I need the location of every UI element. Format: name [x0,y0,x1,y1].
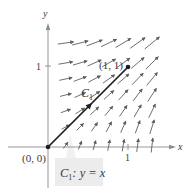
field-arrow-icon [91,123,97,132]
field-arrow-icon [133,89,142,101]
end-point-label: (1, 1) [99,59,123,72]
field-arrow-icon [104,91,114,100]
svg-text:C1: y = x: C1: y = x [60,166,106,182]
svg-text:C1: C1 [81,86,93,102]
field-arrow-icon [151,138,153,152]
field-arrow-icon [122,140,124,152]
field-arrow-icon [108,140,110,151]
field-arrow-icon [134,105,141,117]
origin-label: (0, 0) [22,152,46,165]
field-arrow-icon [119,90,128,100]
field-arrow-icon [130,38,145,49]
curve-callout: C1: y = x [55,134,106,186]
vector-field-figure: C1: y = x x y 1 1 C1 (1, 1) (0, 0) [0,0,187,193]
field-arrow-icon [146,57,158,69]
field-arrow-icon [148,88,157,101]
x-tick-label: 1 [125,152,130,163]
field-arrow-icon [116,39,131,48]
field-arrow-icon [135,121,140,134]
field-arrow-icon [149,104,156,118]
field-arrow-icon [132,73,143,84]
x-axis-arrow-icon [169,145,176,149]
vector-field [58,37,160,153]
y-tick-label: 1 [36,61,41,72]
field-arrow-icon [59,78,72,81]
field-arrow-icon [58,42,74,44]
field-arrow-icon [106,122,111,132]
field-arrow-icon [145,37,160,49]
field-arrow-icon [101,39,116,46]
field-arrow-icon [88,76,100,82]
field-arrow-icon [74,77,86,82]
x-axis-label: x [177,141,183,152]
y-axis-label: y [42,8,48,19]
field-arrow-icon [73,61,87,65]
field-arrow-icon [59,62,73,64]
field-arrow-icon [90,107,98,115]
field-arrow-icon [87,40,103,46]
field-arrow-icon [137,139,139,152]
callout-pointer [66,134,76,158]
field-arrow-icon [77,124,84,131]
field-arrow-icon [120,106,127,117]
callout-equation: : y = x [72,166,106,180]
y-axis-arrow-icon [46,23,50,30]
field-arrow-icon [131,58,144,69]
field-arrow-icon [105,106,113,115]
field-arrow-icon [121,121,126,132]
curve-label-subscript: 1 [89,93,93,102]
field-arrow-icon [61,109,71,112]
field-arrow-icon [72,41,88,45]
end-point [126,65,131,70]
field-arrow-icon [150,120,154,134]
field-arrow-icon [60,94,71,97]
field-arrow-icon [63,142,67,148]
field-arrow-icon [78,141,81,149]
field-arrow-icon [93,141,96,150]
start-point [46,145,51,150]
field-arrow-icon [147,73,158,86]
